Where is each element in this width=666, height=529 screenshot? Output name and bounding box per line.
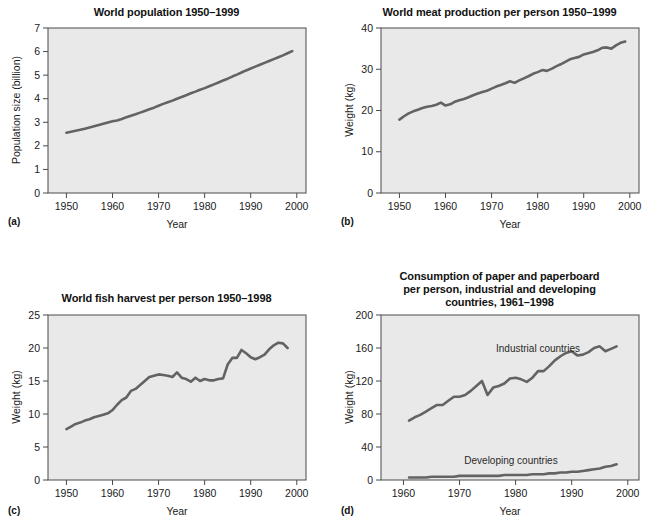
panel-c-y-axis: 0510152025	[28, 309, 48, 486]
panel-d: Consumption of paper and paperboard per …	[333, 265, 666, 529]
panel-d-ylabel: Weight (kg)	[343, 370, 355, 424]
panel-b-plot: 010203040 195019601970198019902000 Year …	[333, 0, 666, 264]
panel-a-xlabel: Year	[166, 218, 188, 230]
x-tick-label: 2000	[285, 200, 309, 212]
panel-c-plot: 0510152025 195019601970198019902000 Year…	[0, 265, 333, 529]
x-tick-label: 1990	[239, 487, 263, 499]
y-tick-label: 20	[361, 104, 373, 116]
y-tick-label: 7	[34, 22, 40, 34]
panel-b-xlabel: Year	[499, 218, 521, 230]
y-tick-label: 0	[367, 187, 373, 199]
y-tick-label: 25	[28, 309, 40, 321]
x-tick-label: 1960	[101, 200, 125, 212]
y-tick-label: 5	[34, 69, 40, 81]
panel-a-ylabel: Population size (billion)	[10, 56, 22, 164]
y-tick-label: 120	[355, 375, 373, 387]
x-tick-label: 2000	[616, 487, 640, 499]
y-tick-label: 10	[361, 145, 373, 157]
x-tick-label: 1970	[147, 487, 171, 499]
x-tick-label: 1970	[147, 200, 171, 212]
panel-b-ylabel: Weight (kg)	[343, 83, 355, 137]
y-tick-label: 2	[34, 139, 40, 151]
panel-d-y-axis: 04080120160200	[355, 309, 381, 486]
panel-a-x-axis: 195019601970198019902000	[55, 193, 309, 212]
panel-a-plot-area	[48, 28, 306, 193]
y-tick-label: 40	[361, 22, 373, 34]
y-tick-label: 1	[34, 163, 40, 175]
y-tick-label: 5	[34, 441, 40, 453]
panel-b-y-axis: 010203040	[361, 22, 381, 199]
y-tick-label: 15	[28, 375, 40, 387]
y-tick-label: 3	[34, 116, 40, 128]
y-tick-label: 20	[28, 342, 40, 354]
x-tick-label: 1990	[239, 200, 263, 212]
y-tick-label: 40	[361, 441, 373, 453]
x-tick-label: 1990	[572, 200, 596, 212]
y-tick-label: 6	[34, 45, 40, 57]
x-tick-label: 1980	[193, 487, 217, 499]
x-tick-label: 1970	[480, 200, 504, 212]
x-tick-label: 1950	[388, 200, 412, 212]
panel-d-plot: 04080120160200 19601970198019902000 Indu…	[333, 265, 666, 529]
panel-c: World fish harvest per person 1950–1998 …	[0, 265, 333, 529]
x-tick-label: 2000	[285, 487, 309, 499]
x-tick-label: 1960	[434, 200, 458, 212]
y-tick-label: 0	[34, 474, 40, 486]
panel-b-x-axis: 195019601970198019902000	[388, 193, 642, 212]
y-tick-label: 10	[28, 408, 40, 420]
x-tick-label: 1960	[392, 487, 416, 499]
panel-b: World meat production per person 1950–19…	[333, 0, 666, 264]
x-tick-label: 1980	[526, 200, 550, 212]
y-tick-label: 160	[355, 342, 373, 354]
panel-a-y-axis: 01234567	[34, 22, 48, 199]
panel-d-annotation-developing: Developing countries	[464, 455, 557, 466]
x-tick-label: 2000	[618, 200, 642, 212]
x-tick-label: 1950	[55, 487, 79, 499]
x-tick-label: 1980	[193, 200, 217, 212]
x-tick-label: 1950	[55, 200, 79, 212]
x-tick-label: 1960	[101, 487, 125, 499]
panel-b-plot-area	[381, 28, 639, 193]
x-tick-label: 1980	[504, 487, 528, 499]
y-tick-label: 30	[361, 63, 373, 75]
x-tick-label: 1970	[448, 487, 472, 499]
y-tick-label: 80	[361, 408, 373, 420]
panel-a: World population 1950–1999 (a) 01234567 …	[0, 0, 333, 264]
figure-grid: World population 1950–1999 (a) 01234567 …	[0, 0, 666, 529]
y-tick-label: 0	[367, 474, 373, 486]
panel-a-plot: 01234567 195019601970198019902000 Year P…	[0, 0, 333, 264]
panel-d-xlabel: Year	[499, 505, 521, 517]
panel-c-plot-area	[48, 315, 306, 480]
panel-c-xlabel: Year	[166, 505, 188, 517]
y-tick-label: 0	[34, 187, 40, 199]
panel-c-ylabel: Weight (kg)	[10, 370, 22, 424]
panel-d-x-axis: 19601970198019902000	[392, 480, 640, 499]
y-tick-label: 200	[355, 309, 373, 321]
panel-d-annotation-industrial: Industrial countries	[496, 343, 580, 354]
panel-c-x-axis: 195019601970198019902000	[55, 480, 309, 499]
x-tick-label: 1990	[560, 487, 584, 499]
y-tick-label: 4	[34, 92, 40, 104]
